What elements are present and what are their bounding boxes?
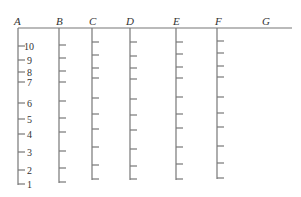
tick-label-9: 9 (27, 55, 32, 66)
tick-label-2: 2 (27, 165, 32, 176)
tick-label-1: 1 (27, 179, 32, 190)
column-label-g: G (262, 15, 270, 27)
column-label-d: D (125, 15, 134, 27)
tick-label-7: 7 (27, 77, 32, 88)
column-label-a: A (13, 15, 21, 27)
column-label-f: F (214, 15, 222, 27)
tick-label-4: 4 (27, 129, 32, 140)
column-label-e: E (172, 15, 180, 27)
timeline-diagram: G A10987654321BCDEF (0, 0, 301, 197)
column-label-c: C (89, 15, 97, 27)
column-label-b: B (56, 15, 63, 27)
tick-label-10: 10 (24, 41, 34, 52)
tick-label-3: 3 (27, 147, 32, 158)
tick-label-6: 6 (27, 98, 32, 109)
tick-label-5: 5 (27, 114, 32, 125)
